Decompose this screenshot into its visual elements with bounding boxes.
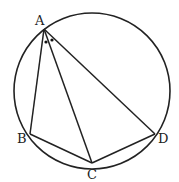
label-a: A (34, 13, 45, 28)
label-c: C (87, 167, 97, 182)
angle-mark-dot-1 (44, 40, 47, 43)
angle-mark-dot-2 (50, 38, 53, 41)
circumcircle (14, 13, 170, 169)
segment-ac (44, 29, 92, 163)
label-b: B (17, 131, 27, 146)
geometry-diagram: A B C D (0, 0, 179, 182)
segment-ad (44, 29, 155, 134)
segment-ab (30, 29, 44, 134)
label-d: D (158, 131, 168, 146)
